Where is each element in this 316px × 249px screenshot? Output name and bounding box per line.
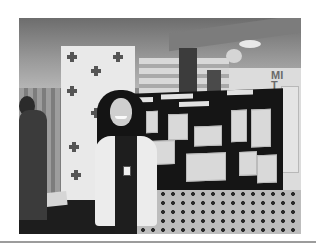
smile	[115, 116, 127, 119]
woman-face	[110, 98, 132, 126]
divider-line	[0, 241, 316, 243]
cross-icon	[113, 52, 123, 62]
cross-icon	[91, 66, 101, 76]
cross-icon	[67, 52, 77, 62]
globe-light	[226, 49, 242, 63]
woman-dark-top	[115, 136, 137, 234]
ceiling-lamp	[239, 40, 261, 48]
booth-photo: MI T	[19, 18, 301, 234]
board-label	[161, 93, 193, 99]
board-label	[179, 101, 209, 107]
heart-card	[168, 114, 188, 141]
id-badge	[123, 166, 131, 176]
cross-icon	[69, 142, 79, 152]
board-card	[257, 155, 277, 184]
board-card	[231, 110, 247, 143]
cross-icon	[71, 170, 81, 180]
cross-icon	[67, 86, 77, 96]
person-left	[19, 110, 47, 220]
wall-panel	[281, 86, 299, 173]
board-label	[227, 89, 253, 95]
board-card	[146, 111, 158, 133]
chart-card	[186, 152, 226, 181]
board-card	[194, 125, 222, 146]
board-card	[239, 151, 257, 176]
board-card	[251, 109, 271, 148]
